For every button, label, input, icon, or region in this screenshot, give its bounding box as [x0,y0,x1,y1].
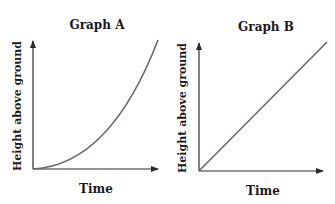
graph-a-curve [33,40,158,169]
graph-b-x-label: Time [246,184,280,198]
graph-a-x-label: Time [79,182,113,196]
graphs-figure: Graph A Height above ground Time Graph B… [0,0,335,204]
graph-a-y-label: Height above ground [11,41,24,171]
graph-a: Graph A Height above ground Time [11,18,158,196]
graph-b: Graph B Height above ground Time [176,20,327,198]
graph-b-y-label: Height above ground [176,43,189,173]
graph-a-title: Graph A [70,18,126,32]
graph-b-line [199,42,327,171]
graph-b-title: Graph B [238,20,294,34]
